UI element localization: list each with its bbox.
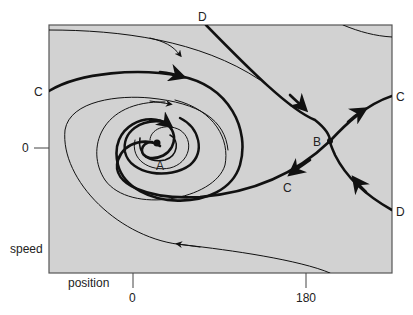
- x-axis-label: position: [68, 277, 109, 289]
- fixed-point-B: [327, 138, 333, 144]
- y-zero-label: 0: [22, 142, 29, 154]
- label-D-top: D: [198, 11, 207, 23]
- label-B: B: [313, 136, 321, 148]
- fixed-point-A: [154, 140, 161, 147]
- x-180-label: 180: [296, 292, 316, 304]
- phase-portrait-diagram: [0, 0, 413, 315]
- label-C-right: C: [396, 91, 405, 103]
- label-C-bottom: C: [283, 182, 292, 194]
- label-A: A: [156, 160, 164, 172]
- y-axis-label: speed: [10, 243, 43, 255]
- label-D-right: D: [396, 206, 405, 218]
- label-C-left: C: [34, 86, 43, 98]
- plot-area: [49, 25, 392, 273]
- x-zero-label: 0: [129, 292, 136, 304]
